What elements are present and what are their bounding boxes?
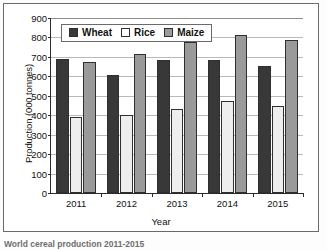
x-axis-tick-label: 2015 [267, 198, 288, 209]
bar-rice-2012 [120, 115, 133, 193]
legend-label: Maize [177, 27, 204, 38]
y-axis-tick-label: 500 [31, 90, 47, 101]
bar-rice-2015 [272, 106, 285, 194]
y-axis-tick-label: 300 [31, 129, 47, 140]
bar-wheat-2013 [157, 60, 170, 193]
bar-group [253, 18, 303, 193]
bar-wheat-2015 [258, 66, 271, 193]
bar-wheat-2011 [56, 59, 69, 193]
y-axis-tick-label: 900 [31, 13, 47, 24]
chart-frame: Production (000 tonnes) Year 01002003004… [3, 3, 319, 232]
y-axis-tick-mark [48, 193, 51, 194]
legend-label: Wheat [82, 27, 112, 38]
y-axis-tick-label: 600 [31, 71, 47, 82]
y-axis-tick-label: 0 [42, 188, 47, 199]
bar-group [51, 18, 101, 193]
bar-series-container [51, 18, 303, 193]
bar-maize-2015 [285, 40, 298, 193]
legend-swatch-wheat [69, 28, 78, 37]
legend-item-rice: Rice [121, 27, 155, 38]
bar-maize-2014 [235, 35, 248, 193]
bar-rice-2011 [70, 117, 83, 193]
bar-maize-2011 [83, 62, 96, 193]
x-axis-tick-label: 2012 [116, 198, 137, 209]
bar-group [202, 18, 252, 193]
x-axis-tick-label: 2011 [66, 198, 86, 209]
legend-swatch-maize [164, 28, 173, 37]
bar-rice-2013 [171, 109, 184, 193]
chart-legend: WheatRiceMaize [61, 24, 212, 42]
x-axis-tick-mark [202, 193, 203, 197]
x-axis-tick-mark [101, 193, 102, 197]
legend-item-wheat: Wheat [69, 27, 112, 38]
y-axis-tick-label: 700 [31, 51, 47, 62]
x-axis-tick-mark [152, 193, 153, 197]
x-axis-tick-label: 2014 [217, 198, 238, 209]
bar-maize-2012 [134, 54, 147, 193]
legend-item-maize: Maize [164, 27, 204, 38]
x-axis-tick-label: 2013 [166, 198, 187, 209]
y-axis-tick-label: 400 [31, 110, 47, 121]
bar-rice-2014 [221, 101, 234, 193]
plot-area: 0100200300400500600700800900 20112012201… [50, 18, 303, 194]
x-axis-title: Year [4, 216, 318, 227]
bar-group [101, 18, 151, 193]
bar-wheat-2012 [107, 75, 120, 193]
bar-wheat-2014 [208, 60, 221, 193]
legend-swatch-rice [121, 28, 130, 37]
x-axis-tick-mark [303, 193, 304, 197]
legend-label: Rice [134, 27, 155, 38]
bar-group [152, 18, 202, 193]
figure-caption: World cereal production 2011-2015 [4, 239, 322, 250]
x-axis-tick-mark [253, 193, 254, 197]
bar-maize-2013 [184, 42, 197, 193]
figure-page: Production (000 tonnes) Year 01002003004… [0, 0, 327, 250]
y-axis-tick-label: 100 [31, 168, 47, 179]
y-axis-tick-label: 800 [31, 32, 47, 43]
y-axis-tick-label: 200 [31, 149, 47, 160]
